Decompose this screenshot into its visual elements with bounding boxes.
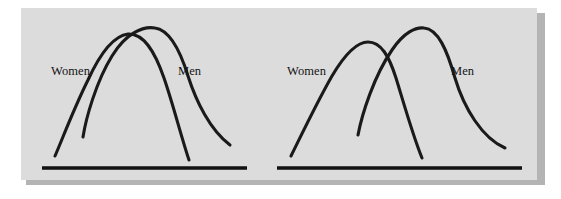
curve-women-left: [55, 34, 189, 160]
figure-root: Women Men Women Men: [0, 0, 561, 199]
curve-men-left: [83, 28, 230, 145]
curve-label-women-left: Women: [51, 64, 90, 79]
curves-canvas: [0, 0, 561, 199]
curve-label-men-right: Men: [451, 64, 474, 79]
curve-label-men-left: Men: [178, 64, 201, 79]
curve-women-right: [291, 42, 422, 158]
curve-label-women-right: Women: [287, 64, 326, 79]
